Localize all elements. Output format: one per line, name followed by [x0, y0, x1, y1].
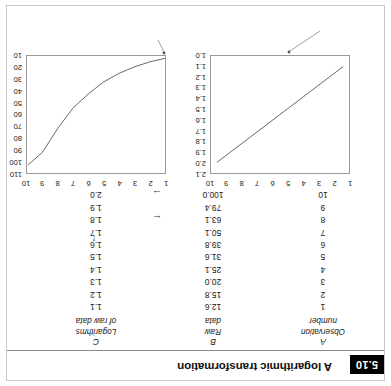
table-cell: 7	[280, 226, 366, 238]
arrow-up-icon: ↑	[79, 234, 109, 244]
rotated-page-container: 5.10 A logarithmic transformation A Obse…	[0, 0, 391, 386]
xtick: 4	[112, 179, 128, 188]
ytick: 100	[9, 157, 22, 167]
ytick: 30	[14, 74, 22, 84]
table-column-a: A Observation number 1 2 3 4 5 6 7 8 9 1…	[280, 189, 366, 348]
table-cell: 50.1	[170, 226, 256, 238]
table-cell: 4	[280, 263, 366, 275]
ytick: 1.5	[195, 104, 206, 114]
charts-row: 1 2 3 4 5 6 7 8 9 10 10	[7, 8, 384, 194]
table-cell: 1	[280, 301, 366, 313]
column-header-b-line2: data	[170, 315, 256, 326]
figure-header: 5.10 A logarithmic transformation	[7, 350, 384, 380]
xtick: 10	[18, 179, 34, 188]
figure-number-badge: 5.10	[350, 355, 384, 374]
xtick: 7	[249, 179, 265, 188]
xtick: 8	[50, 179, 66, 188]
ytick: 110	[10, 169, 22, 179]
table-cell: 1.2	[48, 288, 144, 300]
header-rule	[7, 350, 384, 351]
table-cell: 3	[280, 276, 366, 288]
log-chart-line	[211, 56, 349, 173]
table-cell: 1.5	[48, 251, 144, 263]
ytick: 1.3	[195, 83, 206, 93]
ytick: 1.7	[195, 126, 206, 136]
raw-chart-yticks: 10 20 30 40 50 60 70 80 90 100 110	[0, 55, 24, 174]
table-cell: 1.1	[48, 301, 144, 313]
table-cell: 63.1	[170, 214, 256, 226]
xtick: 2	[327, 179, 343, 188]
ytick: 2.0	[195, 158, 206, 168]
table-cell: 9	[280, 201, 366, 213]
table-cell: 31.6	[170, 251, 256, 263]
arrow-left-icon: ←	[135, 212, 179, 224]
column-letter-c: C	[48, 336, 144, 348]
logarithm-chart: 1 2 3 4 5 6 7 8 9 10 1.0	[198, 8, 376, 194]
column-b-cells: 12.6 15.8 20.0 25.1 31.6 39.8 50.1 63.1 …	[170, 189, 256, 313]
xtick: 1	[342, 179, 358, 188]
ytick: 40	[14, 86, 22, 96]
xtick: 8	[234, 179, 250, 188]
ytick: 80	[14, 133, 22, 143]
xtick: 5	[280, 179, 296, 188]
log-chart-yticks: 1.0 1.1 1.2 1.3 1.4 1.5 1.6 1.7 1.8 1.9 …	[182, 55, 208, 174]
xtick: 7	[65, 179, 81, 188]
column-a-cells: 1 2 3 4 5 6 7 8 9 10	[280, 189, 366, 313]
ytick: 1.1	[195, 61, 206, 71]
table-cell: 2	[280, 288, 366, 300]
xtick: 3	[311, 179, 327, 188]
raw-chart-xticks: 1 2 3 4 5 6 7 8 9 10	[26, 175, 166, 188]
column-c-cells: 1.1 1.2 1.3 1.4 1.5 1.6 1.7 1.8 1.9 2.0	[48, 189, 144, 313]
xtick: 10	[202, 179, 218, 188]
ytick: 20	[14, 62, 22, 72]
xtick: 6	[81, 179, 97, 188]
ytick: 50	[14, 98, 22, 108]
column-header-b: Raw data	[170, 314, 256, 336]
table-cell: 20.0	[170, 276, 256, 288]
column-header-c-line2: of raw data	[48, 315, 144, 326]
xtick: 3	[127, 179, 143, 188]
ytick: 1.9	[195, 147, 206, 157]
log-chart-xticks: 1 2 3 4 5 6 7 8 9 10	[210, 175, 350, 188]
ytick: 1.2	[195, 72, 206, 82]
raw-chart-plot-area	[26, 55, 166, 174]
raw-data-chart: 1 2 3 4 5 6 7 8 9 10 10	[14, 8, 192, 194]
figure-page: 5.10 A logarithmic transformation A Obse…	[6, 5, 385, 381]
column-letter-a: A	[280, 336, 366, 348]
table-cell: 39.8	[170, 239, 256, 251]
figure-title: A logarithmic transformation	[177, 361, 332, 373]
column-header-a: Observation number	[280, 314, 366, 336]
table-cell: 6	[280, 239, 366, 251]
ytick: 60	[14, 110, 22, 120]
xtick: 5	[96, 179, 112, 188]
ytick: 1.4	[195, 93, 206, 103]
table-cell: 25.1	[170, 263, 256, 275]
table-cell: 5	[280, 251, 366, 263]
ytick: 90	[14, 145, 22, 155]
table-column-c: C Logarithms of raw data 1.1 1.2 1.3 1.4…	[48, 189, 144, 348]
ytick: 1.8	[195, 137, 206, 147]
column-letter-b: B	[170, 336, 256, 348]
column-header-b-line1: Raw	[170, 326, 256, 337]
table-cell: 1.8	[48, 214, 144, 226]
xtick: 9	[218, 179, 234, 188]
xtick: 4	[296, 179, 312, 188]
ytick: 1.6	[195, 115, 206, 125]
ytick: 1.0	[195, 50, 206, 60]
xtick: 1	[158, 179, 174, 188]
xtick: 2	[143, 179, 159, 188]
xtick: 9	[34, 179, 50, 188]
raw-chart-curve	[27, 56, 165, 173]
table-cell: 1.3	[48, 276, 144, 288]
table-column-b: B Raw data 12.6 15.8 20.0 25.1 31.6 39.8…	[170, 189, 256, 348]
table-cell: 79.4	[170, 201, 256, 213]
xtick: 6	[265, 179, 281, 188]
column-header-c: Logarithms of raw data	[48, 314, 144, 336]
table-cell: 12.6	[170, 301, 256, 313]
ytick: 10	[14, 50, 22, 60]
column-header-a-line2: number	[280, 315, 366, 326]
log-chart-plot-area	[210, 55, 350, 174]
column-header-a-line1: Observation	[280, 326, 366, 337]
table-cell: 15.8	[170, 288, 256, 300]
column-header-c-line1: Logarithms	[48, 326, 144, 337]
